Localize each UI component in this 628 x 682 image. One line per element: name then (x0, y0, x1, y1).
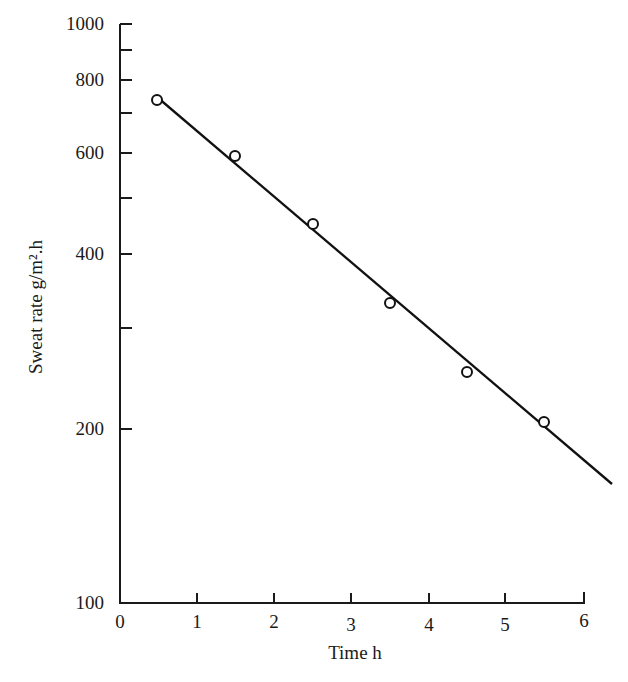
data-point (385, 298, 395, 308)
x-tick-label-3: 3 (346, 614, 356, 635)
y-tick-label-600: 600 (76, 142, 105, 163)
y-axis-title: Sweat rate g/m².h (25, 240, 46, 374)
data-point (462, 367, 472, 377)
x-tick-label-2: 2 (269, 611, 279, 632)
data-point (539, 417, 549, 427)
data-point (152, 95, 162, 105)
x-tick-label-0: 0 (115, 611, 125, 632)
y-tick-label-800: 800 (76, 69, 105, 90)
x-ticks (197, 592, 584, 603)
x-tick-label-5: 5 (500, 614, 510, 635)
x-tick-label-1: 1 (192, 611, 202, 632)
x-tick-labels: 0 1 2 3 4 5 6 (115, 610, 589, 635)
data-point (230, 151, 240, 161)
y-tick-labels: 1000 800 600 400 200 100 (66, 13, 104, 613)
y-tick-label-400: 400 (76, 243, 105, 264)
x-axis-title: Time h (328, 642, 382, 663)
data-point (308, 219, 318, 229)
y-tick-label-200: 200 (76, 418, 105, 439)
x-tick-label-4: 4 (424, 614, 434, 635)
chart-canvas: 1000 800 600 400 200 100 0 1 2 3 4 5 6 T… (0, 0, 628, 682)
y-ticks (120, 24, 132, 429)
x-tick-label-6: 6 (579, 610, 589, 631)
y-tick-label-1000: 1000 (66, 13, 104, 34)
y-tick-label-100: 100 (76, 592, 105, 613)
